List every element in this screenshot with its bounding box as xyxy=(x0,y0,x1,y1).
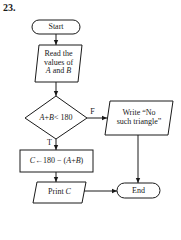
comparison-text: < 180 xyxy=(54,113,73,122)
write-line-2: such triangle” xyxy=(107,118,171,127)
var-b: B xyxy=(66,66,71,75)
assign-text: ←180 − ( xyxy=(35,156,66,165)
false-branch-label: F xyxy=(89,108,96,117)
input-label: Read the values of A and B xyxy=(37,50,80,76)
and-text: and xyxy=(51,66,67,75)
end-label: End xyxy=(117,187,160,196)
input-line-3: A and B xyxy=(37,67,80,76)
close-paren: ) xyxy=(81,156,84,165)
print-label: Print C xyxy=(35,188,84,197)
decision-label: A+B< 180 xyxy=(28,114,84,123)
process-label: C←180 − (A+B) xyxy=(20,157,93,166)
var-c: C xyxy=(66,187,71,196)
print-text: Print xyxy=(48,187,66,196)
true-branch-label: T xyxy=(46,139,53,148)
write-label: Write “No such triangle” xyxy=(107,109,171,126)
start-label: Start xyxy=(32,23,80,32)
